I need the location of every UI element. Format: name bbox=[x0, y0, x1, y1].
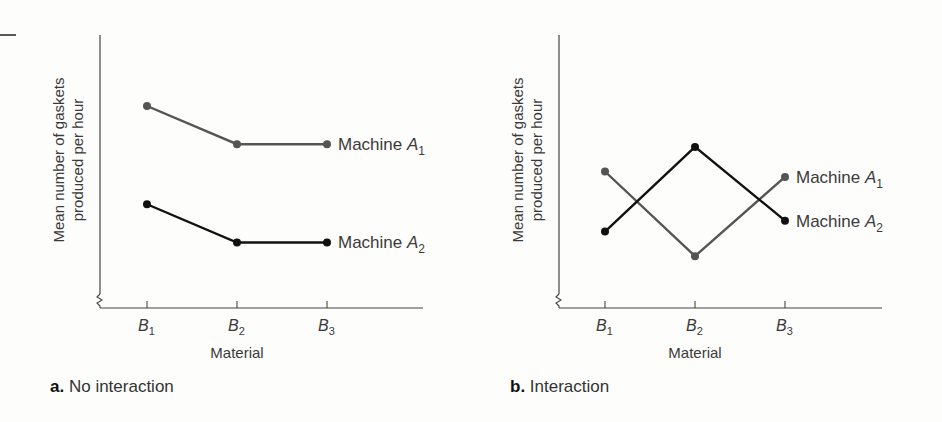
data-point bbox=[143, 102, 151, 110]
caption-a: a. No interaction bbox=[50, 377, 174, 397]
series-label-2: Machine A2 bbox=[796, 212, 883, 235]
data-point bbox=[323, 140, 331, 148]
x-tick-label: B1 bbox=[596, 317, 613, 337]
series-label-1: Machine A1 bbox=[338, 135, 425, 158]
axis-break-icon bbox=[556, 294, 561, 308]
caption-a-text: No interaction bbox=[69, 377, 174, 396]
x-axis-label: Material bbox=[210, 344, 263, 361]
series-line-2 bbox=[147, 204, 327, 242]
data-point bbox=[323, 238, 331, 246]
x-tick-label: B3 bbox=[318, 317, 335, 337]
y-axis-label-line1: Mean number of gaskets bbox=[50, 77, 67, 242]
caption-b: b. Interaction bbox=[510, 377, 609, 397]
y-axis-label-line2: produced per hour bbox=[528, 99, 545, 222]
series-label-1: Machine A1 bbox=[796, 168, 883, 191]
data-point bbox=[233, 140, 241, 148]
series-line-2 bbox=[605, 147, 785, 232]
x-tick-label: B3 bbox=[776, 317, 793, 337]
data-point bbox=[691, 143, 699, 151]
caption-a-letter: a. bbox=[50, 377, 64, 396]
data-point bbox=[601, 228, 609, 236]
x-axis-label: Material bbox=[668, 344, 721, 361]
chart-panel-b: B1B2B3MaterialMean number of gasketsprod… bbox=[509, 35, 883, 361]
data-point bbox=[781, 173, 789, 181]
series-line-1 bbox=[605, 172, 785, 257]
y-axis-label-line1: Mean number of gaskets bbox=[509, 77, 526, 242]
caption-b-text: Interaction bbox=[530, 377, 609, 396]
data-point bbox=[601, 168, 609, 176]
data-point bbox=[691, 252, 699, 260]
figure: B1B2B3MaterialMean number of gasketsprod… bbox=[0, 0, 942, 422]
series-line-1 bbox=[147, 106, 327, 144]
data-point bbox=[233, 238, 241, 246]
data-point bbox=[781, 217, 789, 225]
caption-b-letter: b. bbox=[510, 377, 525, 396]
data-point bbox=[143, 200, 151, 208]
y-axis-label-line2: produced per hour bbox=[69, 99, 86, 222]
x-tick-label: B2 bbox=[228, 317, 245, 337]
series-label-2: Machine A2 bbox=[338, 233, 425, 256]
axis-break-icon bbox=[97, 294, 102, 308]
chart-panel-a: B1B2B3MaterialMean number of gasketsprod… bbox=[50, 35, 425, 361]
x-tick-label: B1 bbox=[138, 317, 155, 337]
x-tick-label: B2 bbox=[686, 317, 703, 337]
